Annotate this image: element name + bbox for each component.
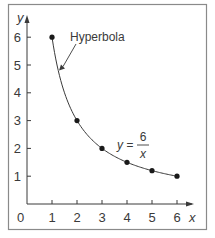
y-tick-label: 1 — [14, 169, 21, 184]
y-tick-label: 6 — [14, 30, 21, 45]
x-tick-label: 5 — [148, 210, 155, 225]
origin-label: 0 — [17, 210, 24, 225]
y-tick-label: 3 — [14, 113, 21, 128]
data-point — [74, 118, 79, 123]
equation-lhs: y = — [116, 138, 133, 152]
data-point — [99, 146, 104, 151]
x-axis-label: x — [188, 210, 196, 225]
hyperbola-annotation: Hyperbola — [70, 30, 125, 44]
data-point — [124, 160, 129, 165]
data-point — [174, 174, 179, 179]
y-tick-label: 4 — [14, 85, 21, 100]
y-tick-label: 5 — [14, 58, 21, 73]
x-tick-label: 3 — [98, 210, 105, 225]
x-tick-label: 6 — [173, 210, 180, 225]
hyperbola-chart: 123456123456 0 x y Hyperbola y = 6 x — [0, 0, 215, 238]
x-tick-label: 2 — [73, 210, 80, 225]
data-point — [149, 168, 154, 173]
equation-denominator: x — [139, 147, 147, 161]
data-point — [49, 35, 54, 40]
y-tick-label: 2 — [14, 141, 21, 156]
equation-numerator: 6 — [140, 130, 147, 144]
x-tick-label: 4 — [123, 210, 130, 225]
x-tick-label: 1 — [48, 210, 55, 225]
